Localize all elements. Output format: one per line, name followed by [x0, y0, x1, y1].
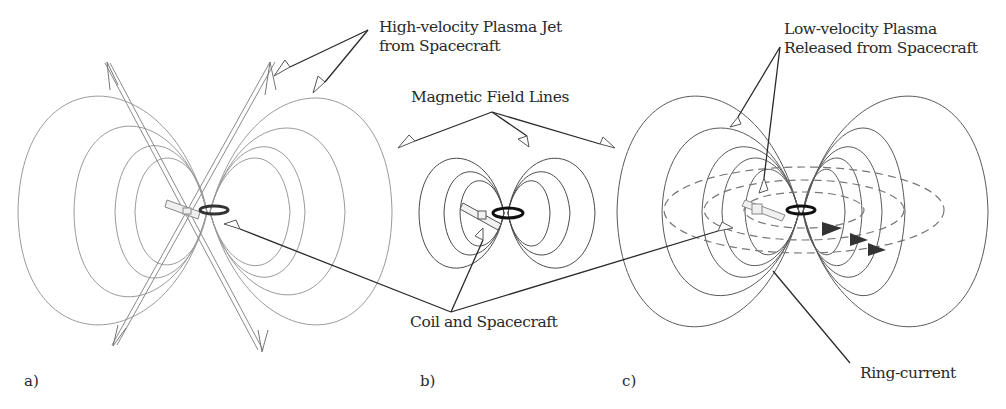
jet-label-line2: from Spacecraft	[379, 37, 500, 56]
panel-b-label: b)	[420, 372, 435, 390]
field-lines-label: Magnetic Field Lines	[411, 88, 569, 107]
jet-label-line1: High-velocity Plasma Jet	[379, 18, 562, 37]
coil-label: Coil and Spacecraft	[410, 313, 557, 332]
low-velocity-label-line2: Released from Spacecraft	[784, 39, 978, 58]
panel-c-label: c)	[622, 372, 636, 390]
magnetic-sail-diagram	[0, 0, 1006, 409]
panel-a-label: a)	[24, 372, 39, 390]
ring-current-label: Ring-current	[860, 364, 956, 383]
low-velocity-label-line1: Low-velocity Plasma	[784, 20, 937, 39]
